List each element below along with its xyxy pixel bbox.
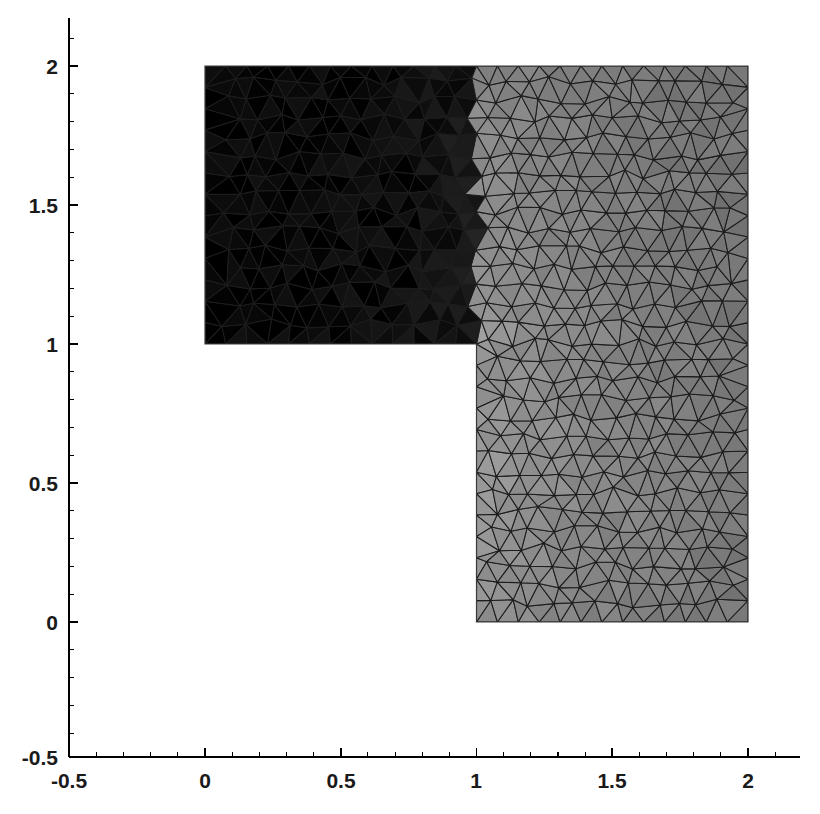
y-tick-label-1: 1 bbox=[10, 334, 58, 355]
x-tick-label-1: 1 bbox=[470, 770, 482, 791]
y-tick-label-2: 2 bbox=[10, 56, 58, 77]
y-tick-label-1p5: 1.5 bbox=[0, 195, 58, 216]
x-tick-label-2: 2 bbox=[742, 770, 754, 791]
y-tick-label-0p5: 0.5 bbox=[0, 473, 58, 494]
x-tick-label-neg0p5: -0.5 bbox=[51, 770, 87, 791]
y-tick-label-0: 0 bbox=[10, 612, 58, 633]
mesh-plot bbox=[0, 0, 820, 814]
x-tick-label-1p5: 1.5 bbox=[597, 770, 626, 791]
figure-canvas: 2 1.5 1 0.5 0 -0.5 -0.5 0 0.5 1 1.5 2 bbox=[0, 0, 820, 814]
x-tick-label-0: 0 bbox=[199, 770, 211, 791]
x-tick-label-0p5: 0.5 bbox=[326, 770, 355, 791]
plot-region bbox=[69, 18, 800, 757]
y-tick-label-neg0p5: -0.5 bbox=[0, 747, 58, 768]
